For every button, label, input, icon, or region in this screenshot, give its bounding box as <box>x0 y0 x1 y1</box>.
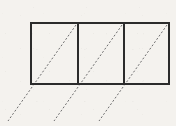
figure-container <box>0 0 176 126</box>
geometry-diagram <box>0 0 176 126</box>
diagram-background <box>0 0 176 126</box>
